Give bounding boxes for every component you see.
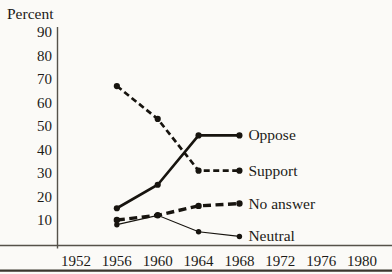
data-point-support xyxy=(155,116,161,122)
y-axis-title: Percent xyxy=(7,5,54,22)
x-tick-label: 1976 xyxy=(306,253,337,269)
data-point-neutral xyxy=(237,234,242,239)
y-tick-label: 20 xyxy=(37,189,52,205)
series-label-neutral: Neutral xyxy=(248,227,294,244)
x-tick-label: 1972 xyxy=(265,253,295,269)
y-tick-label: 90 xyxy=(37,24,52,40)
y-tick-label: 70 xyxy=(37,71,52,87)
data-point-no-answer xyxy=(195,203,201,209)
y-tick-label: 10 xyxy=(37,212,52,228)
y-tick-label: 30 xyxy=(37,165,52,181)
data-point-no-answer xyxy=(236,200,242,206)
data-point-oppose xyxy=(155,182,161,188)
series-label-no-answer: No answer xyxy=(248,195,316,212)
x-tick-label: 1960 xyxy=(143,253,173,269)
data-point-support xyxy=(236,168,242,174)
x-tick-label: 1964 xyxy=(184,253,215,269)
y-tick-label: 80 xyxy=(37,48,52,64)
line-chart-figure: Percent 90807060504030201019521956196019… xyxy=(0,0,392,274)
x-tick-label: 1952 xyxy=(61,253,91,269)
data-point-support xyxy=(114,83,120,89)
series-label-oppose: Oppose xyxy=(248,126,295,143)
y-tick-label: 50 xyxy=(37,118,52,134)
series-line-no-answer xyxy=(117,204,240,220)
data-point-oppose xyxy=(195,132,201,138)
data-point-oppose xyxy=(114,205,120,211)
chart-canvas: Percent 90807060504030201019521956196019… xyxy=(0,0,392,274)
x-tick-label: 1980 xyxy=(347,253,377,269)
data-point-neutral xyxy=(155,213,160,218)
x-tick-label: 1968 xyxy=(224,253,254,269)
series-line-support xyxy=(117,86,240,171)
data-point-neutral xyxy=(114,222,119,227)
x-tick-label: 1956 xyxy=(102,253,133,269)
y-tick-label: 40 xyxy=(37,142,52,158)
series-label-support: Support xyxy=(248,162,298,179)
data-point-neutral xyxy=(196,229,201,234)
y-tick-label: 60 xyxy=(37,95,52,111)
data-point-support xyxy=(195,168,201,174)
data-point-oppose xyxy=(236,132,242,138)
